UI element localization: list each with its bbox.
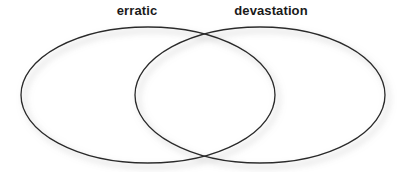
venn-circle-left <box>21 27 275 163</box>
venn-diagram-canvas <box>0 0 409 172</box>
venn-diagram-figure: erratic devastation <box>0 0 409 172</box>
venn-circle-right <box>135 27 385 163</box>
venn-label-left: erratic <box>117 4 157 18</box>
venn-circles-group <box>21 27 385 163</box>
venn-label-right: devastation <box>234 4 307 18</box>
